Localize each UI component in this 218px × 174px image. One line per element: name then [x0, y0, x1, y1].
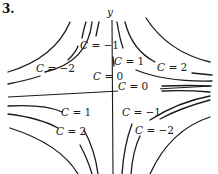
x-axis: [8, 86, 212, 97]
curve-ur-2: [146, 18, 210, 62]
label-lr-neg1: C = −1: [122, 106, 161, 118]
label-ul-neg1: C = −1: [80, 39, 119, 51]
label-ur-2: C = 2: [157, 61, 187, 73]
svg-text:C = 1: C = 1: [61, 106, 91, 118]
svg-text:C = 1: C = 1: [114, 55, 144, 67]
curve-ur-2b: [192, 73, 212, 75]
svg-text:C = −2: C = −2: [135, 124, 174, 136]
svg-text:C = 0: C = 0: [118, 80, 148, 92]
label-x-axis-zero: C = 0: [118, 80, 160, 92]
label-ll-1: C = 1: [61, 106, 91, 118]
svg-text:C = −1: C = −1: [122, 106, 161, 118]
y-axis-label: y: [106, 6, 114, 18]
label-ur-1: C = 1: [114, 55, 144, 67]
curve-lr-1: [122, 124, 132, 174]
curve-x-seg2: [162, 91, 210, 92]
curve-ul-1a: [68, 46, 78, 60]
problem-number: 3.: [2, 2, 15, 16]
curve-ul-inner: [96, 22, 99, 36]
svg-text:C = −2: C = −2: [36, 62, 75, 74]
curve-ll-1: [8, 106, 62, 112]
label-ll-2: C = 2: [56, 125, 86, 137]
level-curves-figure: 3. y C = −1 C = −2 C = 1 C = 2 C = 0: [0, 0, 218, 174]
curve-ul-2a: [8, 76, 40, 84]
svg-text:C = 2: C = 2: [56, 125, 86, 137]
curve-ll-2b: [80, 145, 92, 174]
svg-text:C = 2: C = 2: [157, 61, 187, 73]
curve-ul-1b: [82, 22, 86, 38]
label-lr-neg2: C = −2: [135, 124, 174, 136]
svg-text:C = −1: C = −1: [80, 39, 119, 51]
curve-x-seg: [162, 86, 210, 87]
label-ul-neg2: C = −2: [36, 62, 75, 74]
curve-lr-2: [131, 136, 140, 174]
curve-ll-2: [8, 114, 58, 128]
